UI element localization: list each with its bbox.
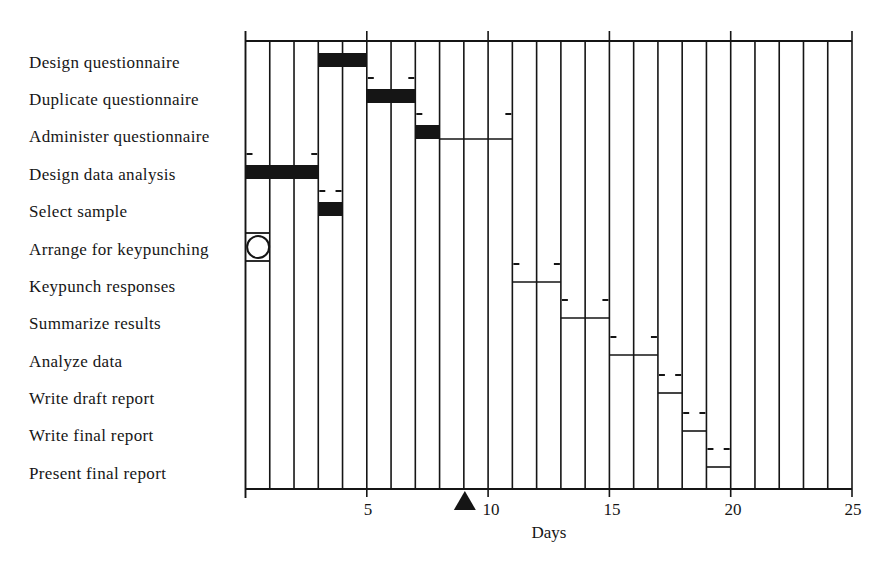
completed-bar-design-data-analysis [246, 165, 319, 179]
x-tick-label-25: 25 [833, 500, 873, 520]
task-label-duplicate-questionnaire: Duplicate questionnaire [29, 90, 199, 110]
task-label-keypunch-responses: Keypunch responses [29, 277, 176, 297]
task-label-design-questionnaire: Design questionnaire [29, 53, 180, 73]
completed-bar-select-sample [318, 202, 342, 216]
x-tick-label-15: 15 [592, 500, 632, 520]
task-label-select-sample: Select sample [29, 202, 128, 222]
task-label-write-draft-report: Write draft report [29, 389, 155, 409]
x-tick-label-20: 20 [713, 500, 753, 520]
task-label-arrange-for-keypunching: Arrange for keypunching [29, 240, 209, 260]
task-label-present-final-report: Present final report [29, 464, 166, 484]
task-label-analyze-data: Analyze data [29, 352, 122, 372]
milestone-circle-icon-arrange-for-keypunching [247, 236, 269, 258]
task-label-administer-questionnaire: Administer questionnaire [29, 127, 210, 147]
task-label-summarize-results: Summarize results [29, 314, 161, 334]
task-label-design-data-analysis: Design data analysis [29, 165, 176, 185]
completed-bar-design-questionnaire [318, 53, 367, 67]
completed-bar-duplicate-questionnaire [367, 89, 416, 103]
gantt-chart: Design questionnaire Duplicate questionn… [0, 0, 889, 569]
completed-bar-administer-questionnaire [415, 125, 439, 139]
x-tick-label-5: 5 [348, 500, 388, 520]
x-tick-label-10: 10 [471, 500, 511, 520]
task-label-write-final-report: Write final report [29, 426, 154, 446]
x-axis-title: Days [519, 523, 579, 543]
